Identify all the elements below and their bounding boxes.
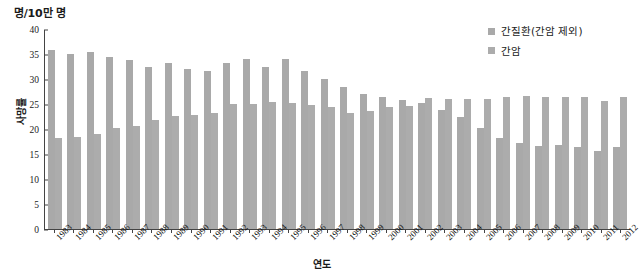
liver-disease-mortality-chart: 명/10만 명 사망률 0510152025303540 19831984198… (0, 0, 643, 276)
bar-group[interactable] (84, 30, 104, 229)
bar-group[interactable] (104, 30, 124, 229)
bar-series-1[interactable] (379, 97, 386, 229)
bar-group[interactable] (299, 30, 319, 229)
bar-series-2[interactable] (133, 126, 140, 230)
bar-group[interactable] (396, 30, 416, 229)
bar-group[interactable] (455, 30, 475, 229)
bar-series-1[interactable] (594, 151, 601, 230)
bar-series-2[interactable] (211, 113, 218, 229)
bar-series-2[interactable] (386, 107, 393, 230)
bar-series-1[interactable] (321, 79, 328, 230)
bar-series-1[interactable] (145, 67, 152, 229)
bar-series-2[interactable] (191, 115, 198, 230)
bar-series-1[interactable] (535, 146, 542, 230)
bar-series-2[interactable] (464, 99, 471, 230)
bar-group[interactable] (162, 30, 182, 229)
bar-series-1[interactable] (477, 128, 484, 230)
bar-group[interactable] (377, 30, 397, 229)
legend-item[interactable]: 간질환(간암 제외) (488, 26, 583, 37)
bar-group[interactable] (435, 30, 455, 229)
bar-group[interactable] (591, 30, 611, 229)
y-tick-label: 25 (30, 100, 45, 110)
legend-swatch-icon (488, 47, 495, 54)
bar-series-1[interactable] (301, 71, 308, 229)
bar-group[interactable] (357, 30, 377, 229)
bar-group[interactable] (416, 30, 436, 229)
bar-group[interactable] (611, 30, 631, 229)
bar-group[interactable] (260, 30, 280, 229)
bar-series-2[interactable] (74, 137, 81, 229)
bar-series-2[interactable] (367, 111, 374, 230)
bar-series-1[interactable] (496, 138, 503, 230)
bar-series-2[interactable] (581, 97, 588, 230)
bar-group[interactable] (201, 30, 221, 229)
bar-series-1[interactable] (282, 59, 289, 230)
y-tick-mark (44, 180, 48, 181)
bar-series-2[interactable] (269, 102, 276, 230)
bar-series-1[interactable] (243, 59, 250, 230)
bar-series-1[interactable] (87, 52, 94, 229)
bar-series-2[interactable] (484, 99, 491, 230)
bar-group[interactable] (240, 30, 260, 229)
y-tick-mark (44, 30, 48, 31)
bar-group[interactable] (182, 30, 202, 229)
bar-series-1[interactable] (574, 147, 581, 230)
y-tick-label: 0 (34, 225, 44, 235)
bar-series-2[interactable] (425, 98, 432, 229)
bar-series-2[interactable] (308, 105, 315, 229)
bar-series-1[interactable] (106, 57, 113, 230)
y-tick-label: 10 (30, 175, 45, 185)
bar-series-1[interactable] (555, 145, 562, 229)
bar-series-1[interactable] (165, 63, 172, 230)
bar-series-1[interactable] (126, 60, 133, 230)
bar-series-1[interactable] (204, 71, 211, 230)
x-tick-mark (191, 230, 192, 233)
bar-series-2[interactable] (620, 97, 627, 230)
bar-series-1[interactable] (340, 87, 347, 229)
bar-series-1[interactable] (418, 103, 425, 230)
bar-group[interactable] (143, 30, 163, 229)
bar-series-2[interactable] (172, 116, 179, 230)
bar-series-2[interactable] (250, 104, 257, 230)
bar-series-1[interactable] (67, 54, 74, 229)
bar-series-1[interactable] (457, 117, 464, 229)
bar-group[interactable] (338, 30, 358, 229)
bar-series-2[interactable] (94, 134, 101, 229)
y-tick-mark (44, 80, 48, 81)
bar-series-1[interactable] (360, 94, 367, 230)
bar-series-2[interactable] (152, 120, 159, 229)
legend-item[interactable]: 간암 (488, 46, 583, 57)
y-tick-label: 40 (30, 25, 45, 35)
bar-series-1[interactable] (438, 110, 445, 230)
bar-series-1[interactable] (262, 67, 269, 230)
y-tick-label: 15 (30, 150, 45, 160)
bar-group[interactable] (279, 30, 299, 229)
bar-series-1[interactable] (399, 100, 406, 230)
bar-series-2[interactable] (347, 113, 354, 229)
bar-series-2[interactable] (562, 97, 569, 229)
y-tick-label: 5 (34, 200, 44, 210)
bar-series-1[interactable] (184, 69, 191, 230)
bar-series-2[interactable] (406, 106, 413, 229)
bar-series-2[interactable] (230, 104, 237, 229)
bar-series-2[interactable] (601, 101, 608, 230)
bar-group[interactable] (221, 30, 241, 229)
y-tick-label: 30 (30, 75, 45, 85)
bar-series-2[interactable] (542, 97, 549, 229)
legend-label: 간암 (501, 46, 521, 57)
bar-series-2[interactable] (289, 103, 296, 229)
bar-group[interactable] (318, 30, 338, 229)
bar-series-2[interactable] (55, 138, 62, 229)
bar-series-2[interactable] (503, 97, 510, 230)
bar-group[interactable] (123, 30, 143, 229)
bar-group[interactable] (65, 30, 85, 229)
bar-series-2[interactable] (445, 99, 452, 230)
bar-series-1[interactable] (516, 143, 523, 230)
bar-series-1[interactable] (48, 50, 55, 229)
bar-series-2[interactable] (328, 107, 335, 230)
bar-series-2[interactable] (113, 128, 120, 229)
bar-series-1[interactable] (223, 63, 230, 229)
x-tick-mark (484, 230, 485, 233)
bar-series-2[interactable] (523, 96, 530, 229)
bar-series-1[interactable] (613, 147, 620, 230)
